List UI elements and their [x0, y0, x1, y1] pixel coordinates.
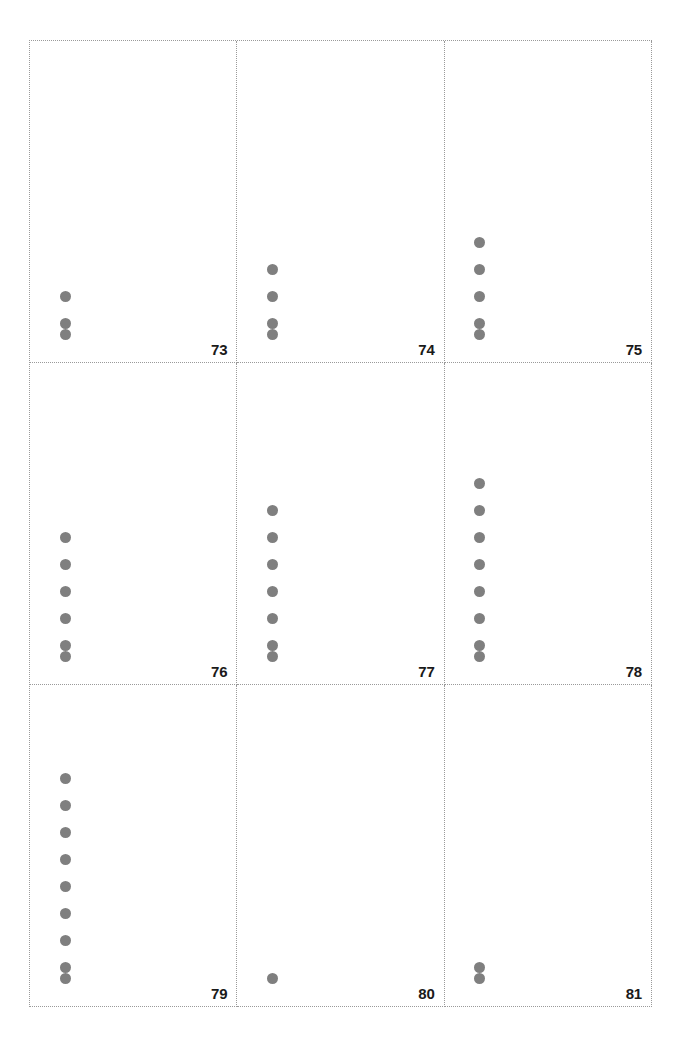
data-point-dot: [60, 291, 71, 302]
data-point-dot: [60, 586, 71, 597]
data-point-dot: [267, 559, 278, 570]
facet-panel: 79: [30, 685, 237, 1007]
facet-panel: 80: [237, 685, 444, 1007]
panel-label: 81: [626, 986, 642, 1001]
data-point-dot: [60, 881, 71, 892]
data-point-dot: [474, 329, 485, 340]
data-point-dot: [60, 532, 71, 543]
data-point-dot: [60, 318, 71, 329]
data-point-dot: [60, 640, 71, 651]
data-point-dot: [60, 935, 71, 946]
data-point-dot: [474, 237, 485, 248]
data-point-dot: [267, 586, 278, 597]
data-point-dot: [474, 973, 485, 984]
data-point-dot: [60, 973, 71, 984]
facet-panel: 74: [237, 41, 444, 363]
data-point-dot: [267, 329, 278, 340]
data-point-dot: [267, 651, 278, 662]
data-point-dot: [474, 532, 485, 543]
data-point-dot: [267, 505, 278, 516]
facet-panel: 77: [237, 363, 444, 685]
panel-label: 73: [211, 342, 227, 357]
panel-label: 77: [418, 664, 434, 679]
data-point-dot: [267, 613, 278, 624]
data-point-dot: [60, 800, 71, 811]
data-point-dot: [60, 559, 71, 570]
data-point-dot: [60, 962, 71, 973]
data-point-dot: [60, 329, 71, 340]
panel-label: 74: [418, 342, 434, 357]
data-point-dot: [60, 651, 71, 662]
data-point-dot: [474, 651, 485, 662]
data-point-dot: [474, 318, 485, 329]
facet-panel: 73: [30, 41, 237, 363]
data-point-dot: [267, 640, 278, 651]
facet-panel: 81: [445, 685, 652, 1007]
data-point-dot: [474, 640, 485, 651]
data-point-dot: [474, 264, 485, 275]
data-point-dot: [267, 532, 278, 543]
data-point-dot: [474, 291, 485, 302]
data-point-dot: [474, 613, 485, 624]
data-point-dot: [60, 613, 71, 624]
data-point-dot: [60, 908, 71, 919]
facet-panel: 76: [30, 363, 237, 685]
data-point-dot: [267, 291, 278, 302]
data-point-dot: [267, 973, 278, 984]
data-point-dot: [474, 586, 485, 597]
panel-label: 80: [418, 986, 434, 1001]
data-point-dot: [267, 318, 278, 329]
data-point-dot: [60, 827, 71, 838]
data-point-dot: [474, 478, 485, 489]
facet-grid: 737475767778798081: [29, 40, 652, 1007]
facet-panel: 75: [445, 41, 652, 363]
data-point-dot: [474, 962, 485, 973]
panel-label: 76: [211, 664, 227, 679]
data-point-dot: [267, 264, 278, 275]
data-point-dot: [60, 854, 71, 865]
panel-label: 79: [211, 986, 227, 1001]
data-point-dot: [60, 773, 71, 784]
facet-panel: 78: [445, 363, 652, 685]
panel-label: 75: [626, 342, 642, 357]
data-point-dot: [474, 559, 485, 570]
panel-label: 78: [626, 664, 642, 679]
data-point-dot: [474, 505, 485, 516]
